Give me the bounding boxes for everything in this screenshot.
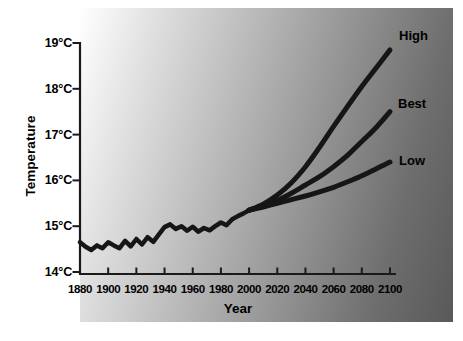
observed-temperature-line <box>80 210 249 250</box>
high-projection-line <box>249 50 390 210</box>
temperature-projection-chart: Temperature Year 19°C18°C17°C16°C15°C14°… <box>0 0 463 341</box>
low-projection-line <box>249 162 390 210</box>
axis-lines <box>80 42 396 274</box>
chart-canvas <box>0 0 463 341</box>
best-projection-line <box>249 112 390 210</box>
